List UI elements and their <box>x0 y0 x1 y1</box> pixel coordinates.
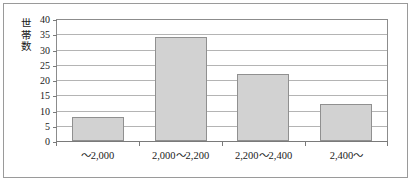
x-axis-ticks <box>56 141 388 146</box>
plot-area: 4035302520151050 <box>56 19 388 141</box>
y-tick-label: 10 <box>40 107 50 117</box>
bar-series <box>57 19 387 141</box>
x-tick-mark <box>56 141 57 146</box>
bar[interactable] <box>320 104 372 141</box>
x-axis-category-label: 2,000～2,200 <box>139 150 222 162</box>
x-tick-mark <box>305 141 306 146</box>
x-tick-slot <box>305 141 388 146</box>
bar-slot <box>222 19 305 141</box>
y-tick-label: 30 <box>40 46 50 56</box>
y-tick-label: 0 <box>45 137 50 147</box>
y-axis-title: 世 帯 数 <box>19 18 32 53</box>
x-axis-category-label: 2,400～ <box>305 150 388 162</box>
x-tick-mark <box>139 141 140 146</box>
bar[interactable] <box>237 74 289 141</box>
y-tick-label: 40 <box>40 15 50 25</box>
x-axis-category-label: 2,200～2,400 <box>222 150 305 162</box>
bar-slot <box>140 19 223 141</box>
x-tick-mark <box>387 141 388 146</box>
y-tick-label: 25 <box>40 61 50 71</box>
x-tick-mark <box>222 141 223 146</box>
x-tick-slot <box>56 141 139 146</box>
chart-frame: 世 帯 数 4035302520151050 ～2,0002,000～2,200… <box>3 3 408 178</box>
y-tick-label: 35 <box>40 30 50 40</box>
y-tick-label: 20 <box>40 76 50 86</box>
bar[interactable] <box>72 117 124 141</box>
x-axis-category-label: ～2,000 <box>56 150 139 162</box>
x-tick-slot <box>222 141 305 146</box>
bar-slot <box>57 19 140 141</box>
y-tick-label: 5 <box>45 122 50 132</box>
x-tick-slot <box>139 141 222 146</box>
y-tick-label: 15 <box>40 91 50 101</box>
bar[interactable] <box>155 37 207 141</box>
bar-slot <box>305 19 388 141</box>
x-axis-labels: ～2,0002,000～2,2002,200～2,4002,400～ <box>56 150 388 162</box>
bar-chart: 世 帯 数 4035302520151050 ～2,0002,000～2,200… <box>13 12 398 169</box>
